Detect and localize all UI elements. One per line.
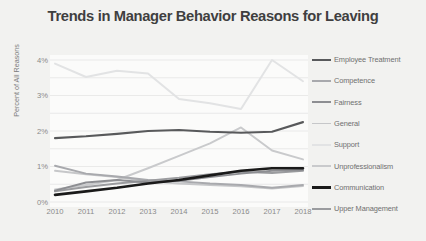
legend-item-label: Communication (334, 183, 384, 192)
legend-item-label: Employee Treatment (334, 55, 400, 64)
legend-item[interactable]: General (312, 113, 426, 134)
legend-item[interactable]: Upper Management (312, 198, 426, 219)
legend-item-label: Fairness (334, 98, 362, 107)
legend-swatch-icon (312, 186, 331, 189)
legend-swatch-icon (312, 59, 331, 61)
legend-item[interactable]: Communication (312, 177, 426, 198)
legend-swatch-icon (312, 144, 331, 146)
legend-item-label: Upper Management (334, 204, 398, 213)
legend-swatch-icon (312, 123, 331, 125)
line-chart: Trends in Manager Behavior Reasons for L… (0, 0, 426, 241)
legend-item[interactable]: Employee Treatment (312, 49, 426, 70)
legend-item[interactable]: Fairness (312, 92, 426, 113)
legend-item-label: Competence (334, 76, 375, 85)
legend-swatch-icon (312, 165, 331, 167)
legend-item-label: Unprofessionalism (334, 162, 393, 171)
legend-item-label: General (334, 119, 360, 128)
legend-swatch-icon (312, 208, 331, 210)
legend-swatch-icon (312, 80, 331, 82)
legend-item[interactable]: Support (312, 134, 426, 155)
legend-item[interactable]: Competence (312, 70, 426, 91)
legend-item-label: Support (334, 140, 359, 149)
legend-item[interactable]: Unprofessionalism (312, 155, 426, 176)
chart-legend: Employee TreatmentCompetenceFairnessGene… (312, 49, 426, 219)
legend-swatch-icon (312, 101, 331, 103)
